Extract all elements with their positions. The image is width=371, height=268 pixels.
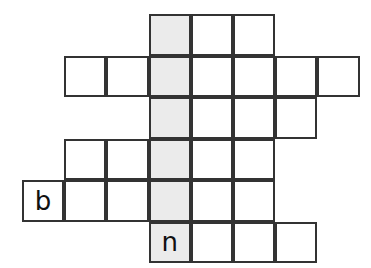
- grid-cell-r0-c4[interactable]: [191, 14, 233, 56]
- cell-letter: n: [161, 229, 177, 255]
- grid-cell-r2-c6[interactable]: [275, 97, 317, 139]
- grid-cell-r3-c5[interactable]: [233, 139, 275, 181]
- grid-cell-r3-c4[interactable]: [191, 139, 233, 181]
- grid-cell-r3-c1[interactable]: [64, 139, 106, 181]
- grid-cell-r3-c2[interactable]: [106, 139, 148, 181]
- grid-cell-r0-c3[interactable]: [149, 14, 191, 56]
- grid-cell-r2-c4[interactable]: [191, 97, 233, 139]
- grid-cell-r0-c5[interactable]: [233, 14, 275, 56]
- grid-cell-r2-c5[interactable]: [233, 97, 275, 139]
- grid-cell-r1-c4[interactable]: [191, 56, 233, 98]
- grid-cell-r3-c3[interactable]: [149, 139, 191, 181]
- cell-letter: b: [35, 188, 52, 214]
- grid-cell-r1-c5[interactable]: [233, 56, 275, 98]
- crossword-grid: bn: [0, 0, 371, 268]
- grid-cell-r4-c0[interactable]: b: [22, 180, 64, 222]
- grid-cell-r5-c4[interactable]: [191, 222, 233, 264]
- grid-cell-r5-c5[interactable]: [233, 222, 275, 264]
- grid-cell-r2-c3[interactable]: [149, 97, 191, 139]
- grid-cell-r4-c5[interactable]: [233, 180, 275, 222]
- grid-cell-r1-c1[interactable]: [64, 56, 106, 98]
- grid-cell-r4-c2[interactable]: [106, 180, 148, 222]
- grid-cell-r1-c3[interactable]: [149, 56, 191, 98]
- grid-cell-r4-c3[interactable]: [149, 180, 191, 222]
- grid-cell-r5-c3[interactable]: n: [149, 222, 191, 264]
- grid-cell-r4-c4[interactable]: [191, 180, 233, 222]
- grid-cell-r1-c2[interactable]: [106, 56, 148, 98]
- grid-cell-r1-c6[interactable]: [275, 56, 317, 98]
- grid-cell-r5-c6[interactable]: [275, 222, 317, 264]
- grid-cell-r4-c1[interactable]: [64, 180, 106, 222]
- grid-cell-r1-c7[interactable]: [317, 56, 359, 98]
